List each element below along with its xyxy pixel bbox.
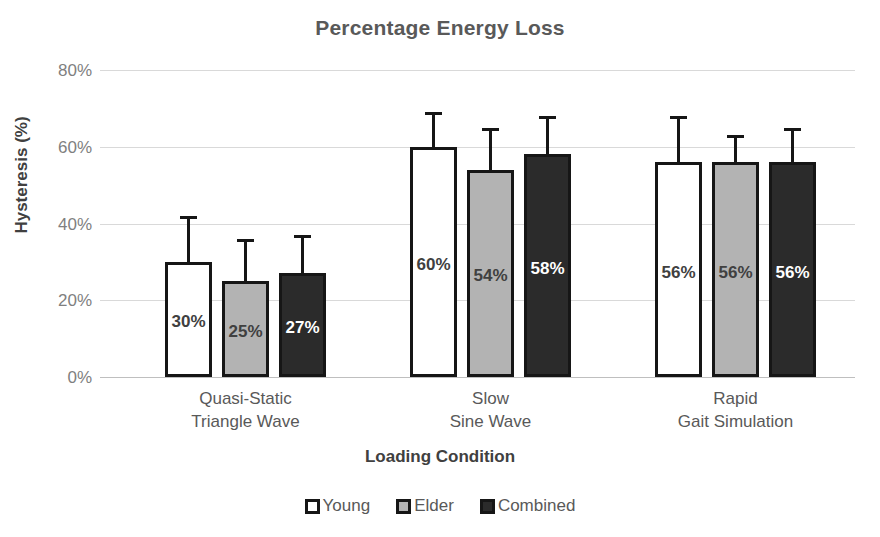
gridline	[100, 70, 855, 71]
error-bar-cap	[670, 116, 687, 119]
plot-area: 30%25%27%60%54%58%56%56%56%	[100, 70, 855, 377]
bar-combined-group-3[interactable]: 56%	[769, 162, 816, 377]
bar-value-label: 56%	[658, 264, 699, 281]
bar-elder-group-1[interactable]: 25%	[222, 281, 269, 377]
x-axis-category-label: SlowSine Wave	[381, 388, 601, 434]
bar-value-label: 27%	[282, 319, 323, 336]
bar-elder-group-2[interactable]: 54%	[467, 170, 514, 377]
x-axis-title: Loading Condition	[0, 447, 880, 467]
gridline	[100, 147, 855, 148]
legend-swatch-icon	[480, 499, 495, 514]
legend-item-combined[interactable]: Combined	[480, 496, 576, 516]
y-axis-tick-label: 0%	[34, 369, 92, 386]
error-bar-cap	[727, 135, 744, 138]
error-bar-stem	[546, 116, 549, 154]
y-axis-tick-labels: 80%60%40%20%0%	[30, 70, 92, 377]
error-bar-stem	[489, 128, 492, 170]
error-bar-stem	[244, 239, 247, 281]
bar-young-group-3[interactable]: 56%	[655, 162, 702, 377]
error-bar-cap	[784, 128, 801, 131]
error-bar-cap	[539, 116, 556, 119]
bar-value-label: 56%	[715, 264, 756, 281]
bar-value-label: 54%	[470, 267, 511, 284]
error-bar-stem	[432, 112, 435, 147]
chart-page: Percentage Energy Loss 80%60%40%20%0% Hy…	[0, 0, 880, 537]
x-axis-category-label-line: Triangle Wave	[136, 411, 356, 434]
legend-label: Elder	[414, 496, 454, 516]
x-axis-category-label: RapidGait Simulation	[626, 388, 846, 434]
bar-combined-group-2[interactable]: 58%	[524, 154, 571, 377]
y-axis-title: Hysteresis (%)	[12, 75, 32, 275]
error-bar-cap	[425, 112, 442, 115]
error-bar-cap	[294, 235, 311, 238]
legend-item-young[interactable]: Young	[305, 496, 371, 516]
legend-swatch-icon	[305, 499, 320, 514]
x-axis-category-label: Quasi-StaticTriangle Wave	[136, 388, 356, 434]
x-axis-category-label-line: Slow	[381, 388, 601, 411]
legend-item-elder[interactable]: Elder	[396, 496, 454, 516]
x-axis-baseline	[100, 377, 855, 378]
x-axis-category-label-line: Rapid	[626, 388, 846, 411]
bar-value-label: 25%	[225, 323, 266, 340]
error-bar-stem	[677, 116, 680, 162]
bar-value-label: 60%	[413, 256, 454, 273]
legend-swatch-icon	[396, 499, 411, 514]
x-axis-category-label-line: Quasi-Static	[136, 388, 356, 411]
bar-value-label: 58%	[527, 260, 568, 277]
x-axis-category-label-line: Sine Wave	[381, 411, 601, 434]
y-axis-tick-label: 60%	[34, 139, 92, 156]
error-bar-stem	[301, 235, 304, 273]
legend: YoungElderCombined	[0, 496, 880, 516]
x-axis-category-label-line: Gait Simulation	[626, 411, 846, 434]
bar-combined-group-1[interactable]: 27%	[279, 273, 326, 377]
error-bar-stem	[187, 216, 190, 262]
bar-young-group-2[interactable]: 60%	[410, 147, 457, 377]
legend-label: Young	[323, 496, 371, 516]
error-bar-cap	[237, 239, 254, 242]
bar-elder-group-3[interactable]: 56%	[712, 162, 759, 377]
page-title: Percentage Energy Loss	[0, 16, 880, 40]
bar-value-label: 56%	[772, 264, 813, 281]
error-bar-stem	[734, 135, 737, 162]
error-bar-stem	[791, 128, 794, 163]
y-axis-tick-label: 20%	[34, 292, 92, 309]
y-axis-tick-label: 80%	[34, 62, 92, 79]
bar-young-group-1[interactable]: 30%	[165, 262, 212, 377]
error-bar-cap	[482, 128, 499, 131]
legend-label: Combined	[498, 496, 576, 516]
error-bar-cap	[180, 216, 197, 219]
y-axis-tick-label: 40%	[34, 216, 92, 233]
bar-value-label: 30%	[168, 313, 209, 330]
